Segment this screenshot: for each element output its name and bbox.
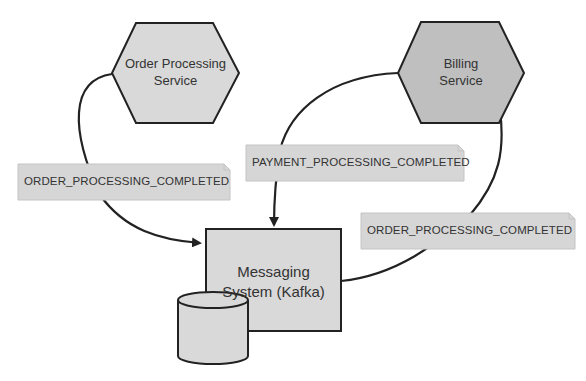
billing-service-line1: Billing <box>398 55 524 72</box>
order-service-line2: Service <box>112 72 239 89</box>
messaging-line1: Messaging <box>206 262 341 282</box>
note-left-text: ORDER_PROCESSING_COMPLETED <box>24 175 229 187</box>
billing-service-label: Billing Service <box>398 55 524 89</box>
order-service-line1: Order Processing <box>112 55 239 72</box>
messaging-line2: System (Kafka) <box>206 282 341 302</box>
order-service-label: Order Processing Service <box>112 55 239 89</box>
note-middle-text: PAYMENT_PROCESSING_COMPLETED <box>252 156 470 168</box>
note-right-text: ORDER_PROCESSING_COMPLETED <box>367 224 572 236</box>
billing-service-line2: Service <box>398 72 524 89</box>
storage-cylinder-icon <box>178 292 248 364</box>
messaging-system-label: Messaging System (Kafka) <box>206 262 341 302</box>
